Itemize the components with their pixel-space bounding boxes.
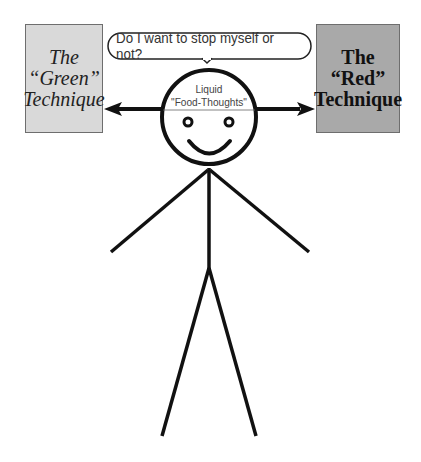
green-box-line-1: The xyxy=(23,47,104,68)
speech-bubble-text: Do I want to stop myself or not? xyxy=(116,33,303,59)
head-label-line-2: "Food-Thoughts" xyxy=(168,96,251,109)
head-label-line-1: Liquid xyxy=(168,83,251,96)
green-box-line-3: Technique xyxy=(23,89,104,110)
red-box-line-2: “Red” xyxy=(314,68,402,89)
head-label: Liquid "Food-Thoughts" xyxy=(168,83,251,109)
green-box-line-2: “Green” xyxy=(23,68,104,89)
red-box-line-1: The xyxy=(314,47,402,68)
arrow-left-icon xyxy=(104,102,163,116)
red-technique-box: The “Red” Technique xyxy=(316,24,400,133)
green-technique-box: The “Green” Technique xyxy=(25,24,103,133)
stick-figure-body xyxy=(111,168,309,436)
red-box-line-3: Technique xyxy=(314,89,402,110)
arrow-right-icon xyxy=(256,102,315,116)
